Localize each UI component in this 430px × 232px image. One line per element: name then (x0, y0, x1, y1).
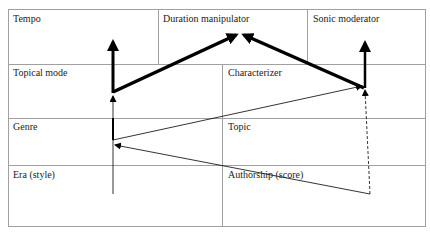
topical-to-duration-arrow (113, 35, 236, 92)
diagram-frame: Tempo Duration manipulator Sonic moderat… (0, 0, 430, 232)
label-duration-manipulator: Duration manipulator (163, 14, 249, 24)
label-genre: Genre (13, 122, 37, 132)
authorship-dashed-line (365, 90, 370, 194)
label-topical-mode: Topical mode (13, 68, 68, 78)
label-tempo: Tempo (13, 14, 41, 24)
label-sonic-moderator: Sonic moderator (313, 14, 379, 24)
characterizer-to-duration-arrow (244, 35, 364, 88)
label-authorship-score: Authorship (score) (228, 170, 303, 180)
label-characterizer: Characterizer (228, 68, 282, 78)
label-era-style: Era (style) (13, 170, 55, 180)
label-topic: Topic (228, 122, 251, 132)
diagram-canvas (0, 0, 430, 232)
